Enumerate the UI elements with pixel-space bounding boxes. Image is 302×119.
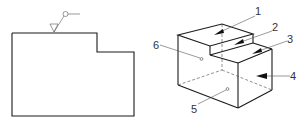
label-5: 5 <box>191 103 197 115</box>
label-1: 1 <box>255 5 261 17</box>
technical-drawing: 1 2 3 4 5 6 <box>0 0 302 119</box>
label-3: 3 <box>287 33 293 45</box>
surface-symbol-icon <box>50 12 80 33</box>
isometric-block <box>178 24 272 108</box>
label-4: 4 <box>290 70 296 82</box>
front-view-outline <box>12 33 134 116</box>
label-2: 2 <box>272 21 278 33</box>
label-6: 6 <box>153 39 159 51</box>
